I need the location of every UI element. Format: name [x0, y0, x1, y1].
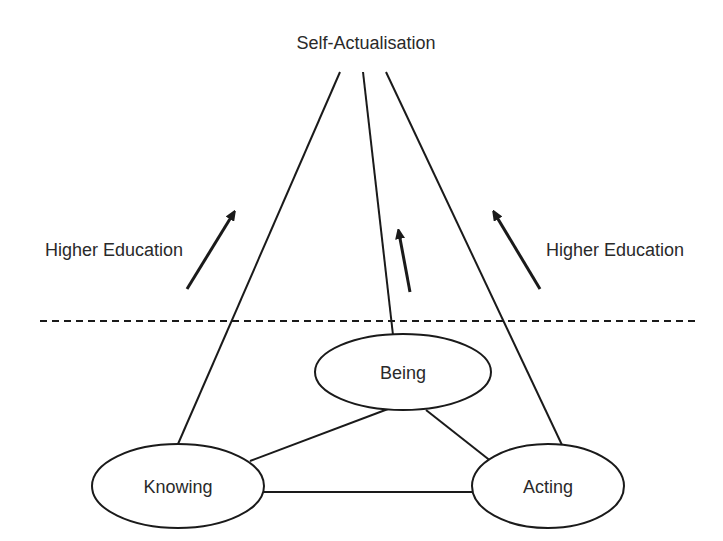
arrow-up-icon — [399, 233, 410, 292]
side-label-left: Higher Education — [45, 240, 183, 261]
side-label-right: Higher Education — [546, 240, 684, 261]
arrow-up-right-icon — [187, 214, 233, 289]
edge-being-acting — [426, 410, 492, 462]
edge-knowing-being — [250, 409, 388, 461]
edge-knowing-apex — [178, 72, 340, 444]
node-label-acting: Acting — [523, 477, 573, 498]
node-label-being: Being — [380, 363, 426, 384]
arrow-up-left-icon — [495, 214, 540, 289]
diagram-canvas — [0, 0, 723, 541]
edge-being-apex — [363, 72, 393, 335]
apex-label: Self-Actualisation — [296, 33, 435, 54]
node-label-knowing: Knowing — [143, 477, 212, 498]
